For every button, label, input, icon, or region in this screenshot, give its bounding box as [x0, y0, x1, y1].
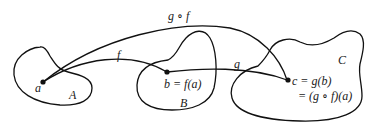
set-A-label: A: [69, 89, 76, 101]
point-b: [164, 69, 169, 74]
set-B-label: B: [180, 97, 187, 109]
arrow-f-label: f: [117, 49, 120, 61]
arrow-g-compose-f-label: g ∘ f: [168, 10, 189, 22]
point-b-label: b = f(a): [164, 78, 201, 90]
point-a: [40, 79, 45, 84]
point-c-label-continued: = (g ∘ f)(a): [298, 90, 352, 102]
point-c-label: c = g(b): [292, 75, 331, 87]
set-C-label: C: [338, 54, 346, 66]
function-composition-diagram: a A f b = f(a) B g g ∘ f c = g(b) = (g ∘…: [0, 0, 378, 126]
arrow-f: [43, 59, 167, 82]
arrow-g-label: g: [234, 58, 240, 70]
point-c: [285, 77, 290, 82]
point-a-label: a: [35, 82, 41, 94]
